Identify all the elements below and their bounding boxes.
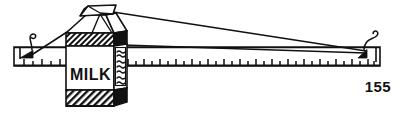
page-number: 155 <box>365 79 391 94</box>
carton-top-band-front <box>66 33 114 46</box>
carton-bottom-band-side <box>114 88 127 106</box>
carton-bottom-band-front <box>66 90 114 106</box>
illustration-page: MILK 155 <box>0 0 400 118</box>
suspension-string-right-upper <box>113 12 366 51</box>
carton-front-label: MILK <box>70 66 111 83</box>
milk-carton: MILK <box>66 5 127 106</box>
milk-carton-balance-figure: MILK <box>0 0 400 118</box>
